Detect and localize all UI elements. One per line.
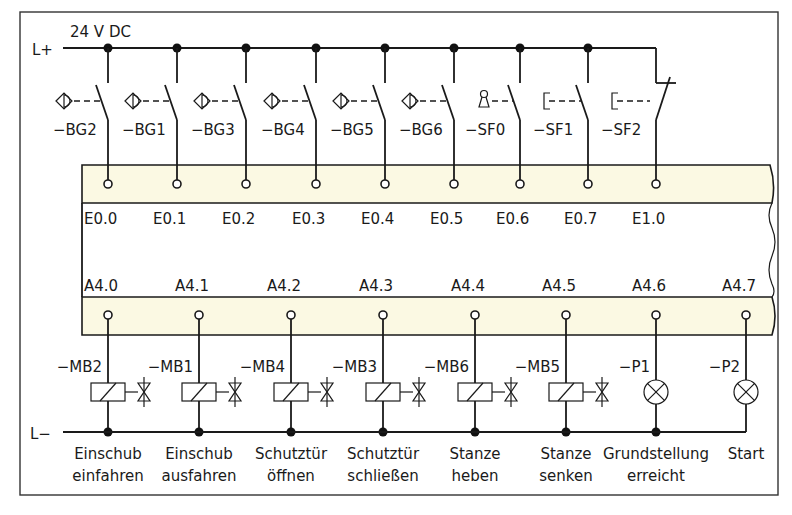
solenoid-coil-slash [375, 383, 391, 401]
supply-voltage-label: 24 V DC [70, 23, 131, 41]
input-address-label: E0.7 [564, 210, 597, 228]
output-description-line2: einfahren [72, 467, 143, 485]
input-address-label: E0.4 [361, 210, 394, 228]
input-address-label: E0.6 [496, 210, 529, 228]
solenoid-coil-slash [283, 383, 299, 401]
input-terminal [381, 180, 389, 188]
output-description-line1: Stanze [449, 445, 500, 463]
input-terminal [173, 180, 181, 188]
no-contact-blade [373, 85, 385, 120]
output-device-label: −MB2 [57, 358, 102, 376]
input-device-label: −BG3 [191, 121, 235, 139]
output-address-label: A4.4 [451, 277, 485, 295]
input-device-label: −SF0 [465, 121, 505, 139]
input-device-label: −SF2 [601, 121, 641, 139]
output-description-line2: erreicht [627, 467, 685, 485]
output-terminal [471, 311, 479, 319]
output-address-label: A4.2 [267, 277, 301, 295]
input-device-label: −SF1 [533, 121, 573, 139]
key-switch-icon [481, 91, 488, 98]
input-terminal [242, 180, 250, 188]
positive-rail-label: L+ [32, 41, 53, 59]
input-device-label: −BG1 [122, 121, 166, 139]
output-address-label: A4.0 [84, 277, 118, 295]
negative-rail-label: L− [30, 425, 51, 443]
plc-break-line [769, 203, 775, 297]
input-address-label: E0.2 [222, 210, 255, 228]
output-description-line2: schließen [347, 467, 418, 485]
no-contact-blade [442, 85, 454, 120]
input-terminal [652, 180, 660, 188]
output-address-label: A4.6 [632, 277, 666, 295]
key-switch-icon-body [479, 97, 489, 107]
input-address-label: E1.0 [632, 210, 665, 228]
output-description-line1: Grundstellung [603, 445, 709, 463]
output-description-line2: öffnen [267, 467, 315, 485]
no-contact-blade [96, 85, 108, 120]
output-description-line1: Einschub [74, 445, 142, 463]
input-terminal [584, 180, 592, 188]
output-description-line1: Start [728, 445, 765, 463]
input-device-label: −BG5 [330, 121, 374, 139]
output-address-label: A4.5 [542, 277, 576, 295]
plc-wiring-diagram: L+ 24 V DC −BG2E0.0−BG1E0.1−BG3E0.2−BG4E… [0, 0, 792, 515]
input-device-label: −BG2 [53, 121, 97, 139]
output-description-line1: Schutztür [347, 445, 420, 463]
input-address-label: E0.5 [430, 210, 463, 228]
input-address-label: E0.3 [292, 210, 325, 228]
solenoid-coil-slash [100, 383, 116, 401]
output-device-label: −MB5 [515, 358, 560, 376]
output-description-line2: heben [452, 467, 499, 485]
output-device-label: −MB6 [424, 358, 469, 376]
output-terminal [104, 311, 112, 319]
no-contact-blade [508, 85, 520, 120]
output-address-label: A4.1 [175, 277, 209, 295]
output-terminal [562, 311, 570, 319]
output-address-label: A4.7 [722, 277, 756, 295]
output-terminal [195, 311, 203, 319]
input-device-label: −BG6 [399, 121, 443, 139]
no-contact-blade [304, 85, 316, 120]
no-contact-blade [165, 85, 177, 120]
output-description-line1: Schutztür [255, 445, 328, 463]
no-contact-blade [234, 85, 246, 120]
output-description-line2: senken [539, 467, 592, 485]
output-terminal [652, 311, 660, 319]
input-terminal [450, 180, 458, 188]
no-contact-blade [576, 85, 588, 120]
solenoid-coil-slash [467, 383, 483, 401]
solenoid-coil-slash [558, 383, 574, 401]
output-address-label: A4.3 [359, 277, 393, 295]
output-device-label: −MB1 [148, 358, 193, 376]
output-terminal [287, 311, 295, 319]
output-device-label: −P1 [619, 358, 650, 376]
plc-input-band [82, 165, 774, 203]
output-terminal [379, 311, 387, 319]
output-device-label: −MB3 [332, 358, 377, 376]
input-terminal [104, 180, 112, 188]
plc-output-band [82, 297, 775, 335]
input-address-label: E0.0 [84, 210, 117, 228]
input-terminal [312, 180, 320, 188]
output-device-label: −MB4 [240, 358, 285, 376]
output-terminal [742, 311, 750, 319]
input-device-label: −BG4 [261, 121, 305, 139]
output-description-line1: Einschub [165, 445, 233, 463]
diagram-frame [20, 12, 778, 495]
output-description-line2: ausfahren [161, 467, 236, 485]
input-address-label: E0.1 [153, 210, 186, 228]
solenoid-coil-slash [191, 383, 207, 401]
output-device-label: −P2 [709, 358, 740, 376]
output-description-line1: Stanze [540, 445, 591, 463]
input-terminal [516, 180, 524, 188]
